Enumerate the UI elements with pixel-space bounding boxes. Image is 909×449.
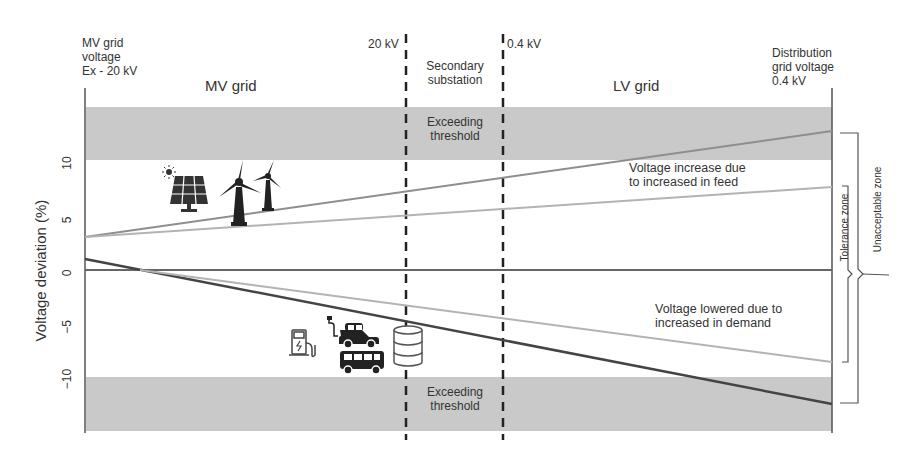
label-line: substation: [410, 73, 500, 87]
distribution-grid-voltage-label: Distribution grid voltage 0.4 kV: [772, 46, 834, 88]
electric-car-icon: [327, 316, 379, 348]
voltage-decrease-annotation: Voltage lowered due to increased in dema…: [655, 302, 782, 330]
label-line: Secondary: [410, 59, 500, 73]
label-line: Exceeding: [410, 385, 500, 399]
storage-battery-icon: [394, 326, 422, 366]
y-tick-10: 10: [60, 153, 74, 173]
voltage-increase-annotation: Voltage increase due to increased in fee…: [629, 161, 746, 189]
label-line: threshold: [410, 399, 500, 413]
bottom-exceeding-threshold-label: Exceeding threshold: [410, 385, 500, 413]
label-line: 0.4 kV: [772, 74, 834, 88]
label-line: threshold: [410, 129, 500, 143]
bus-icon: [340, 351, 384, 374]
label-line: Voltage lowered due to: [655, 302, 782, 316]
ev-charger-icon: [289, 330, 315, 357]
lv-grid-region-label: LV grid: [613, 77, 659, 94]
tolerance-zone-label: Tolerance zone: [839, 178, 850, 278]
y-tick-5: 5: [60, 210, 74, 230]
04kv-label: 0.4 kV: [507, 37, 541, 51]
top-exceeding-threshold-label: Exceeding threshold: [410, 115, 500, 143]
y-tick-minus-10: −10: [60, 366, 74, 392]
bracket-pointer: [863, 274, 889, 275]
20kv-label: 20 kV: [368, 37, 399, 51]
mv-grid-voltage-label: MV grid voltage Ex - 20 kV: [82, 36, 137, 78]
wind-turbine-small-icon: [253, 160, 281, 211]
mv-grid-region-label: MV grid: [205, 77, 257, 94]
voltage-decrease-line-strong: [85, 259, 832, 404]
label-line: Ex - 20 kV: [82, 64, 137, 78]
y-tick-minus-5: −5: [60, 317, 74, 337]
label-line: Exceeding: [410, 115, 500, 129]
label-line: voltage: [82, 50, 137, 64]
label-line: MV grid: [82, 36, 137, 50]
label-line: grid voltage: [772, 60, 834, 74]
secondary-substation-label: Secondary substation: [410, 59, 500, 87]
solar-panel-icon: [170, 176, 208, 212]
unacceptable-zone-label: Unacceptable zone: [872, 155, 883, 265]
y-tick-0: 0: [60, 263, 74, 283]
label-line: Distribution: [772, 46, 834, 60]
label-line: increased in demand: [655, 316, 782, 330]
sun-icon: [162, 165, 176, 179]
label-line: to increased in feed: [629, 175, 746, 189]
label-line: Voltage increase due: [629, 161, 746, 175]
y-axis-label: Voltage deviation (%): [32, 196, 49, 346]
